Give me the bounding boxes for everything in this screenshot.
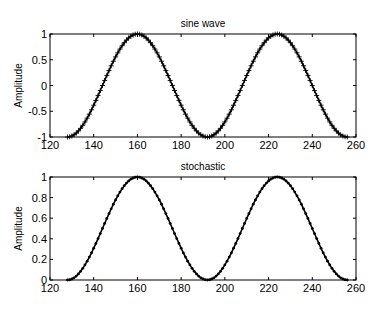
y-tick-label: 0.5 (32, 54, 47, 66)
y-tick-label: -1 (37, 131, 47, 143)
y-tick-label: -0.5 (28, 105, 47, 117)
plot-title: stochastic (181, 161, 225, 172)
x-tick-label: 180 (172, 139, 190, 151)
x-tick-label: 140 (85, 139, 103, 151)
x-tick-label: 220 (259, 139, 277, 151)
x-tick-label: 160 (128, 282, 146, 294)
y-axis-label: Amplitude (13, 63, 24, 108)
y-tick-label: 0.6 (32, 212, 47, 224)
y-tick-label: 0.8 (32, 192, 47, 204)
x-tick-label: 260 (347, 139, 365, 151)
figure: 120140160180200220240260-1-0.500.51sine … (0, 0, 380, 313)
stochastic-plot: 12014016018020022024026000.20.40.60.81st… (13, 161, 365, 294)
x-tick-label: 180 (172, 282, 190, 294)
x-tick-label: 140 (85, 282, 103, 294)
x-tick-label: 200 (216, 282, 234, 294)
x-tick-label: 200 (216, 139, 234, 151)
y-tick-label: 0 (41, 80, 47, 92)
x-tick-label: 160 (128, 139, 146, 151)
x-tick-label: 220 (259, 282, 277, 294)
x-tick-label: 240 (303, 282, 321, 294)
y-tick-label: 1 (41, 171, 47, 183)
y-tick-label: 0 (41, 274, 47, 286)
x-tick-label: 260 (347, 282, 365, 294)
axes-box (50, 177, 356, 280)
y-axis-label: Amplitude (13, 206, 24, 251)
x-tick-label: 240 (303, 139, 321, 151)
sine-wave-plot: 120140160180200220240260-1-0.500.51sine … (13, 18, 365, 151)
y-tick-label: 1 (41, 28, 47, 40)
plot-title: sine wave (181, 18, 226, 29)
y-tick-label: 0.4 (32, 233, 47, 245)
y-tick-label: 0.2 (32, 253, 47, 265)
